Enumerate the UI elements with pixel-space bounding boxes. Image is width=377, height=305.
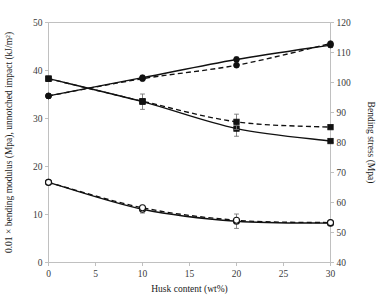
y2-tick-label: 70 xyxy=(337,168,347,178)
x-tick-label: 10 xyxy=(138,269,148,279)
y2-tick-label: 120 xyxy=(337,18,352,28)
y2-axis-title: Bending stress (Mpa) xyxy=(365,102,376,184)
marker-filled-circle xyxy=(234,57,240,63)
y-tick-label: 30 xyxy=(33,114,43,124)
marker-filled-square xyxy=(328,124,333,129)
marker-open-circle xyxy=(234,217,240,223)
chart-figure: 051015202530Husk content (wt%)0102030405… xyxy=(0,0,377,305)
x-tick-label: 30 xyxy=(326,269,336,279)
y-tick-label: 10 xyxy=(33,210,43,220)
marker-open-circle xyxy=(328,220,334,226)
marker-filled-circle xyxy=(234,62,240,68)
marker-open-circle xyxy=(46,179,52,185)
y2-tick-label: 100 xyxy=(337,78,352,88)
series-line-bending-modulus-dashed xyxy=(49,79,331,127)
y2-tick-label: 50 xyxy=(337,228,347,238)
y2-tick-label: 40 xyxy=(337,258,347,268)
marker-filled-square xyxy=(140,99,145,104)
y2-tick-label: 90 xyxy=(337,108,347,118)
marker-filled-circle xyxy=(140,76,146,82)
marker-filled-square xyxy=(46,76,51,81)
y-tick-label: 0 xyxy=(38,258,43,268)
chart-plot: 051015202530Husk content (wt%)0102030405… xyxy=(0,0,377,305)
x-tick-label: 0 xyxy=(46,269,51,279)
y2-tick-label: 80 xyxy=(337,138,347,148)
x-tick-label: 20 xyxy=(232,269,242,279)
x-tick-label: 5 xyxy=(93,269,98,279)
x-axis-title: Husk content (wt%) xyxy=(151,284,228,295)
y2-tick-label: 110 xyxy=(337,48,351,58)
y2-tick-label: 60 xyxy=(337,198,347,208)
x-tick-label: 25 xyxy=(279,269,289,279)
marker-filled-circle xyxy=(328,41,334,47)
marker-filled-circle xyxy=(46,93,52,99)
y-axis-title: 0.01 × bending modulus (Mpa), unnotched … xyxy=(4,32,15,253)
y-tick-label: 50 xyxy=(33,18,43,28)
series-line-unnotched-impact-solid xyxy=(49,182,331,223)
marker-filled-square xyxy=(328,138,333,143)
x-tick-label: 15 xyxy=(185,269,195,279)
marker-filled-square xyxy=(234,119,239,124)
y-tick-label: 20 xyxy=(33,162,43,172)
y-tick-label: 40 xyxy=(33,66,43,76)
marker-open-circle xyxy=(140,205,146,211)
